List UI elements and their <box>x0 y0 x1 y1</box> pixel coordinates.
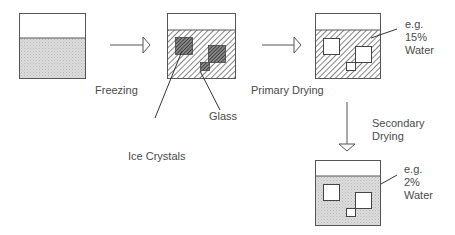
arrow-secondary-drying <box>339 102 355 151</box>
ice-crystal <box>209 46 226 63</box>
label-primary-drying: Primary Drying <box>251 84 324 97</box>
label-secondary-line2: Drying <box>372 130 425 143</box>
label-secondary-line1: Secondary <box>372 117 425 130</box>
arrow-freezing <box>110 37 150 53</box>
label-secondary-drying: Secondary Drying <box>372 117 425 143</box>
pore <box>356 193 372 209</box>
pore <box>324 185 340 201</box>
annotation-15-water: e.g. 15% Water <box>405 18 434 57</box>
annotation-water: Water <box>405 44 434 57</box>
vial-solution <box>20 14 86 79</box>
annotation-eg: e.g. <box>404 163 433 176</box>
label-freezing: Freezing <box>95 84 138 97</box>
vial-secondary-dried <box>316 161 398 226</box>
pore <box>347 209 356 217</box>
annotation-2-water: e.g. 2% Water <box>404 163 433 202</box>
annotation-water: Water <box>404 189 433 202</box>
label-glass: Glass <box>209 110 237 123</box>
annotation-percent: 15% <box>405 31 434 44</box>
water-callout-line <box>381 175 397 184</box>
ice-crystal <box>201 63 210 71</box>
vial-primary-dried <box>316 14 398 79</box>
annotation-percent: 2% <box>404 176 433 189</box>
ice-crystal <box>176 38 193 55</box>
vial-frozen <box>155 14 236 119</box>
pore <box>347 63 356 71</box>
pore <box>356 47 372 63</box>
pore <box>324 39 340 55</box>
annotation-eg: e.g. <box>405 18 434 31</box>
arrow-primary-drying <box>262 37 301 53</box>
label-ice-crystals: Ice Crystals <box>128 150 185 163</box>
